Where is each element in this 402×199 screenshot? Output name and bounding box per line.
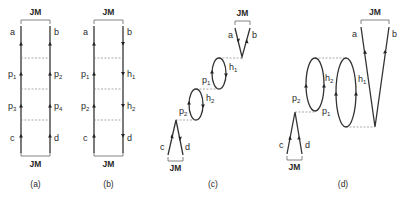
panel-b: JM a p1 p2 c b h1 h2 d JM (b) <box>81 7 136 189</box>
bottom-bracket-label: JM <box>289 162 301 172</box>
arrow-up-icon <box>363 50 367 54</box>
label-p4: p4 <box>54 101 63 112</box>
panel-caption: (c) <box>208 179 218 189</box>
bottom-bracket <box>21 152 50 156</box>
bottom-bracket-label: JM <box>170 163 182 173</box>
label-a: a <box>352 29 357 39</box>
label-p2: p2 <box>179 106 188 117</box>
label-h1: h1 <box>127 69 136 80</box>
label-b: b <box>252 30 257 40</box>
label-p2: p2 <box>54 69 63 80</box>
label-p1: p1 <box>81 69 90 80</box>
label-a: a <box>10 27 15 37</box>
diagram-canvas: JM a p1 p3 c b p2 p4 d JM (a) JM <box>0 0 402 199</box>
top-bracket <box>21 20 50 24</box>
label-p1: p1 <box>8 69 17 80</box>
label-a: a <box>228 30 233 40</box>
arrow-up-icon <box>297 136 301 140</box>
bottom-bracket-label: JM <box>103 159 115 169</box>
label-p2: p2 <box>81 101 90 112</box>
arrow-down-icon <box>224 74 228 78</box>
label-b: b <box>54 27 59 37</box>
arrow-up-icon <box>383 50 387 54</box>
label-d: d <box>54 133 59 143</box>
label-p3: p3 <box>8 101 17 112</box>
label-b: b <box>127 27 132 37</box>
label-b: b <box>392 29 397 39</box>
ellipse-p2-h2 <box>306 58 324 111</box>
top-bracket-label: JM <box>237 8 249 18</box>
top-bracket-label: JM <box>30 7 42 17</box>
ellipse-p1-h1 <box>212 58 226 89</box>
bottom-bracket <box>168 157 183 161</box>
top-bracket <box>361 20 389 24</box>
label-h2: h2 <box>206 93 215 104</box>
arrow-up-icon <box>334 92 338 96</box>
top-bracket-label: JM <box>369 7 381 17</box>
bottom-bracket <box>287 156 302 160</box>
panel-d: JM a b p1 h1 p2 h2 c d JM (d) <box>279 7 397 189</box>
label-h2: h2 <box>127 101 136 112</box>
arrow-up-icon <box>354 92 358 96</box>
arrow-up-icon <box>19 42 52 138</box>
bottom-bracket-label: JM <box>30 159 42 169</box>
bottom-v-loop <box>287 112 302 154</box>
arrow-down-icon <box>179 136 182 141</box>
label-p1: p1 <box>202 75 211 86</box>
label-h1: h1 <box>229 62 238 73</box>
label-d: d <box>127 133 132 143</box>
label-d: d <box>305 140 310 150</box>
label-h2: h2 <box>325 73 334 84</box>
label-c: c <box>83 133 88 143</box>
ellipse-p1-h1 <box>336 58 356 127</box>
label-d: d <box>185 142 190 152</box>
arrow-up-icon <box>322 84 326 88</box>
ellipse-p2-h2 <box>189 89 203 120</box>
label-c: c <box>279 140 284 150</box>
top-bracket <box>94 20 123 24</box>
bottom-bracket <box>94 152 123 156</box>
arrow-up-icon <box>304 84 308 88</box>
panel-caption: (d) <box>338 179 349 189</box>
figure: JM a p1 p3 c b p2 p4 d JM (a) JM <box>0 0 402 199</box>
panel-c: JM a b p1 h1 p2 h2 c d JM (c) <box>160 8 257 189</box>
label-h1: h1 <box>358 74 367 85</box>
arrow-down-icon <box>237 38 240 43</box>
arrow-up-icon <box>187 101 191 105</box>
label-a: a <box>83 27 88 37</box>
top-bracket <box>235 21 250 25</box>
arrow-down-icon <box>201 105 205 109</box>
top-bracket-label: JM <box>103 7 115 17</box>
label-p1: p1 <box>322 106 331 117</box>
label-c: c <box>10 133 15 143</box>
label-c: c <box>160 142 165 152</box>
label-p2: p2 <box>292 93 301 104</box>
arrow-up-icon <box>210 70 214 74</box>
panel-a: JM a p1 p3 c b p2 p4 d JM (a) <box>8 7 63 189</box>
panel-caption: (a) <box>30 179 41 189</box>
arrow-up-icon <box>288 136 292 140</box>
top-v-loop <box>361 27 389 127</box>
panel-caption: (b) <box>103 179 114 189</box>
